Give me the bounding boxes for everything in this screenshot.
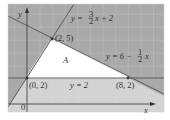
point-2-5 xyxy=(51,38,54,41)
label-point-0-2: (0, 2) xyxy=(29,80,48,90)
region-label: A xyxy=(62,55,69,65)
svg-text:x: x xyxy=(144,51,149,61)
y-axis-label: y xyxy=(17,9,22,19)
label-point-8-2: (8, 2) xyxy=(116,80,135,90)
point-0-2 xyxy=(26,77,29,80)
origin-label: 0 xyxy=(21,102,25,112)
label-line-3: y = 2 xyxy=(69,80,89,90)
label-point-2-5: (2, 5) xyxy=(55,33,74,43)
svg-text:2: 2 xyxy=(89,16,93,26)
svg-text:2: 2 xyxy=(138,54,142,64)
svg-text:x + 2: x + 2 xyxy=(94,13,114,23)
svg-text:y = 6 −: y = 6 − xyxy=(105,51,132,61)
svg-text:y =: y = xyxy=(70,13,83,23)
feasible-region-diagram: y x 0 y = 3 2 x + 2 y = 6 − 1 2 x y = 2 … xyxy=(0,0,170,120)
point-8-2 xyxy=(127,77,130,80)
x-axis-label: x xyxy=(143,105,148,115)
